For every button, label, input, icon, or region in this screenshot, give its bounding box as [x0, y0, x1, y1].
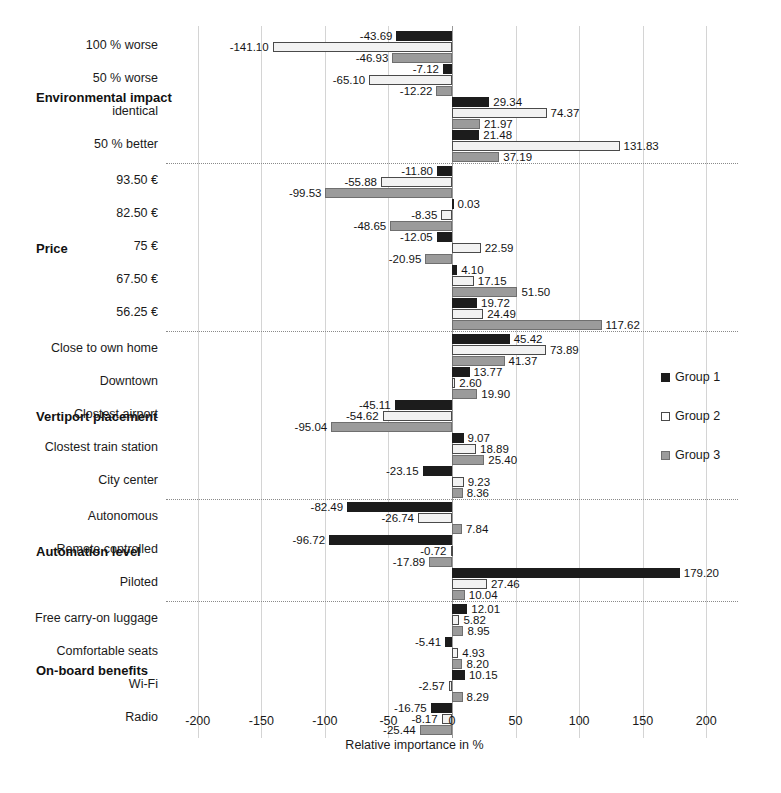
bar-value-label: 37.19: [503, 152, 532, 162]
section-divider: [166, 499, 738, 500]
bar-group-2: [452, 648, 458, 658]
gridline--200: [198, 26, 199, 738]
bar-value-label: -45.11: [359, 400, 391, 410]
bar-group-2: [452, 276, 474, 286]
bar-value-label: 8.36: [467, 488, 489, 498]
bar-group-2: [452, 309, 483, 319]
bar-value-label: -11.80: [401, 166, 433, 176]
legend-swatch-icon-group-3: [661, 451, 670, 460]
bar-group-1: [452, 298, 477, 308]
bar-value-label: 13.77: [474, 367, 503, 377]
bar-value-label: -23.15: [386, 466, 419, 476]
bar-group-3: [452, 692, 463, 702]
x-axis-title-text: Relative importance in %: [345, 738, 483, 752]
bar-value-label: 4.10: [461, 265, 483, 275]
bar-group-3: [452, 287, 517, 297]
bar-value-label: 4.93: [462, 648, 484, 658]
level-label: Piloted: [120, 575, 158, 589]
level-label: Clostest airport: [74, 407, 158, 421]
bar-value-label: 117.62: [606, 320, 640, 330]
bar-group-3: [331, 422, 452, 432]
bar-group-1: [347, 502, 452, 512]
level-label: City center: [98, 473, 158, 487]
legend-item-group-1: Group 1: [661, 370, 771, 384]
bar-value-label: -48.65: [354, 221, 387, 231]
bar-value-label: -16.75: [394, 703, 427, 713]
level-label: Wi-Fi: [129, 677, 158, 691]
level-label: Downtown: [100, 374, 158, 388]
bar-group-2: [449, 681, 452, 691]
plot-area: -43.69-141.10-46.93-7.12-65.10-12.2229.3…: [166, 26, 738, 738]
level-label: Comfortable seats: [57, 644, 158, 658]
bar-group-1: [452, 97, 489, 107]
bar-group-3: [452, 488, 463, 498]
bar-value-label: -8.35: [411, 210, 437, 220]
bar-value-label: -26.74: [381, 513, 414, 523]
bar-group-2: [452, 579, 487, 589]
bar-value-label: 9.07: [468, 433, 490, 443]
bar-value-label: -54.62: [346, 411, 379, 421]
bar-group-1: [431, 703, 452, 713]
bar-group-3: [390, 221, 452, 231]
bar-group-2: [452, 477, 464, 487]
legend-label-group-2: Group 2: [675, 409, 720, 423]
bar-group-3: [425, 254, 452, 264]
bar-value-label: 8.95: [467, 626, 489, 636]
level-label: Radio: [125, 710, 158, 724]
bar-value-label: -12.05: [400, 232, 433, 242]
level-label: 93.50 €: [116, 173, 158, 187]
bar-value-label: -99.53: [289, 188, 322, 198]
bar-group-1: [452, 199, 454, 209]
bar-value-label: -95.04: [295, 422, 328, 432]
chart-legend: Group 1 Group 2 Group 3: [661, 370, 771, 487]
bar-value-label: 17.15: [478, 276, 507, 286]
legend-label-group-3: Group 3: [675, 448, 720, 462]
bar-value-label: 73.89: [550, 345, 579, 355]
bar-group-2: [381, 177, 452, 187]
bar-value-label: -141.10: [230, 42, 269, 52]
bar-group-2: [452, 108, 547, 118]
bar-group-2: [273, 42, 452, 52]
bar-group-3: [452, 320, 602, 330]
bar-group-2: [451, 546, 453, 556]
bar-value-label: -55.88: [344, 177, 377, 187]
level-label: Close to own home: [51, 341, 158, 355]
bar-group-3: [392, 53, 452, 63]
bar-group-2: [452, 378, 455, 388]
bar-group-1: [445, 637, 452, 647]
bar-group-1: [396, 31, 452, 41]
bar-group-2: [452, 345, 546, 355]
bar-value-label: -0.72: [420, 546, 446, 556]
level-label: 50 % better: [94, 137, 158, 151]
bar-value-label: 9.23: [468, 477, 490, 487]
bar-value-label: 18.89: [480, 444, 509, 454]
level-label: Free carry-on luggage: [35, 611, 158, 625]
bar-value-label: 51.50: [521, 287, 550, 297]
x-tick-label-50: 50: [509, 714, 523, 728]
level-label: Remote controlled: [57, 542, 158, 556]
bar-group-3: [452, 455, 484, 465]
bar-value-label: -65.10: [333, 75, 366, 85]
bar-value-label: 8.20: [466, 659, 488, 669]
section-divider: [166, 331, 738, 332]
gridline--50: [388, 26, 389, 738]
bar-group-2: [441, 210, 452, 220]
bar-group-1: [452, 334, 510, 344]
bar-value-label: 179.20: [684, 568, 719, 578]
bar-group-2: [369, 75, 452, 85]
gridline-100: [579, 26, 580, 738]
bar-group-1: [423, 466, 452, 476]
bar-value-label: 29.34: [493, 97, 522, 107]
section-divider: [166, 163, 738, 164]
bar-value-label: 8.29: [467, 692, 489, 702]
legend-swatch-icon-group-1: [661, 373, 670, 382]
x-tick-label-150: 150: [632, 714, 653, 728]
gridline-150: [643, 26, 644, 738]
bar-group-2: [418, 513, 452, 523]
x-axis-tick-labels: -200-150-100-50050100150200: [166, 714, 738, 732]
bar-group-1: [443, 64, 452, 74]
bar-value-label: 7.84: [466, 524, 488, 534]
bar-value-label: 12.01: [471, 604, 500, 614]
bar-group-2: [452, 141, 620, 151]
x-tick-label-200: 200: [696, 714, 717, 728]
